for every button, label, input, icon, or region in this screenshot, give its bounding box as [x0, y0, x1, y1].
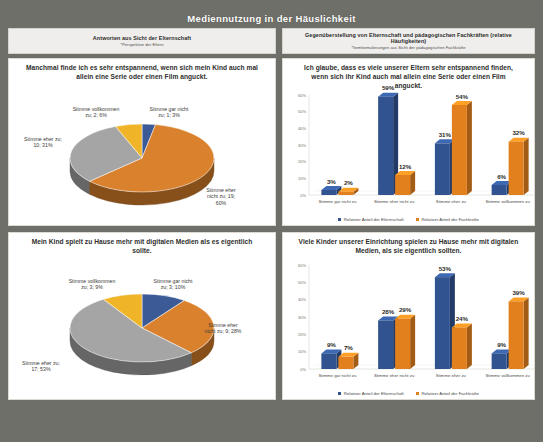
- page-title: Mediennutzung in der Häuslichkeit: [8, 8, 535, 28]
- bar: [509, 297, 529, 369]
- pie-data-label: Stimme eher nicht zu; 9; 28%: [195, 322, 251, 335]
- y-axis-tick: 40%: [298, 297, 306, 302]
- bar-legend: Relativer Anteil der ElternschaftRelativ…: [283, 217, 534, 222]
- bar-value-label: 28%: [382, 308, 395, 315]
- slide-canvas: Mediennutzung in der Häuslichkeit Antwor…: [0, 0, 543, 442]
- legend-label: Relativer Anteil der Fachkräfte: [421, 391, 479, 396]
- y-axis-tick: 20%: [298, 159, 306, 164]
- x-axis-category-label: Stimme vollkommen zu: [485, 199, 530, 204]
- bar: [338, 353, 358, 369]
- bar: [395, 171, 415, 195]
- bar-legend: Relativer Anteil der ElternschaftRelativ…: [283, 391, 534, 396]
- x-axis-category-label: Stimme gar nicht zu: [318, 199, 357, 204]
- y-axis-tick: 10%: [298, 176, 306, 181]
- bar-value-label: 6%: [497, 173, 506, 180]
- bar: [452, 323, 472, 369]
- legend-item: Relativer Anteil der Elternschaft: [338, 391, 404, 396]
- pie-data-label: Stimme eher nicht zu; 19; 60%: [195, 187, 247, 207]
- legend-item: Relativer Anteil der Fachkräfte: [416, 391, 479, 396]
- legend-item: Relativer Anteil der Elternschaft: [338, 217, 404, 222]
- pie-data-label: Stimme vollkommen zu; 3; 9%: [61, 278, 123, 291]
- legend-swatch-icon: [338, 392, 341, 395]
- pie-data-label: Stimme eher zu; 10; 31%: [15, 136, 71, 149]
- column-header-left-title: Antworten aus Sicht der Elternschaft: [93, 35, 191, 41]
- column-header-right-title: Gegenüberstellung von Elternschaft und p…: [287, 32, 530, 44]
- legend-item: Relativer Anteil der Fachkräfte: [416, 217, 479, 222]
- x-axis-category-label: Stimme vollkommen zu: [485, 373, 530, 378]
- legend-swatch-icon: [416, 218, 419, 221]
- y-axis-tick: 30%: [298, 143, 306, 148]
- legend-label: Relativer Anteil der Elternschaft: [344, 217, 404, 222]
- y-axis-tick: 50%: [298, 109, 306, 114]
- y-axis-tick: 30%: [298, 315, 306, 320]
- bar-value-label: 54%: [456, 93, 469, 100]
- panel-pie-bottom: Mein Kind spielt zu Hause mehr mit digit…: [8, 232, 276, 400]
- column-headers: Antworten aus Sicht der Elternschaft *Pe…: [8, 28, 535, 54]
- bar-value-label: 31%: [439, 131, 452, 138]
- bar-value-label: 59%: [382, 84, 395, 91]
- bar-svg: 0%10%20%30%40%50%60%3%2%Stimme gar nicht…: [283, 59, 535, 225]
- pie-data-label: Stimme gar nicht zu; 1; 3%: [141, 106, 197, 119]
- panel-bar-bottom: Viele Kinder unserer Einrichtung spielen…: [282, 232, 535, 400]
- legend-label: Relativer Anteil der Fachkräfte: [421, 217, 479, 222]
- pie-data-label: Stimme eher zu; 17; 53%: [13, 360, 69, 373]
- y-axis-tick: 20%: [298, 332, 306, 337]
- panel-pie-top: Manchmal finde ich es sehr entspannend, …: [8, 58, 276, 226]
- legend-swatch-icon: [416, 392, 419, 395]
- bar-value-label: 9%: [327, 341, 336, 348]
- bar-value-label: 12%: [399, 163, 412, 170]
- y-axis-tick: 50%: [298, 280, 306, 285]
- bar-value-label: 24%: [456, 315, 469, 322]
- y-axis-tick: 0%: [300, 193, 306, 198]
- legend-swatch-icon: [338, 218, 341, 221]
- chart-title-pie-bottom: Mein Kind spielt zu Hause mehr mit digit…: [9, 233, 275, 256]
- bar-value-label: 29%: [399, 306, 412, 313]
- pie-chart-top: Stimme gar nicht zu; 1; 3%Stimme eher ni…: [9, 82, 275, 226]
- bar-chart-top: 0%10%20%30%40%50%60%3%2%Stimme gar nicht…: [283, 59, 534, 225]
- bar-svg: 0%10%20%30%40%50%60%9%7%Stimme gar nicht…: [283, 233, 535, 399]
- pie-chart-bottom: Stimme gar nicht zu; 3; 10%Stimme eher n…: [9, 256, 275, 400]
- panel-bar-top: Ich glaube, dass es viele unserer Eltern…: [282, 58, 535, 226]
- bar: [452, 101, 472, 195]
- bar-chart-bottom: 0%10%20%30%40%50%60%9%7%Stimme gar nicht…: [283, 233, 534, 399]
- chart-grid: Manchmal finde ich es sehr entspannend, …: [8, 58, 535, 400]
- column-header-left: Antworten aus Sicht der Elternschaft *Pe…: [8, 28, 276, 54]
- chart-title-pie-top: Manchmal finde ich es sehr entspannend, …: [9, 59, 275, 82]
- x-axis-category-label: Stimme eher nicht zu: [374, 373, 415, 378]
- bar-value-label: 7%: [344, 344, 353, 351]
- pie-data-label: Stimme vollkommen zu; 2; 6%: [65, 106, 127, 119]
- pie-data-label: Stimme gar nicht zu; 3; 10%: [145, 278, 201, 291]
- bar-value-label: 39%: [512, 289, 525, 296]
- x-axis-category-label: Stimme eher zu: [436, 373, 467, 378]
- column-header-left-subtitle: *Perspektive der Eltern: [120, 42, 163, 47]
- y-axis-tick: 60%: [298, 93, 306, 98]
- y-axis-tick: 10%: [298, 349, 306, 354]
- bar-value-label: 3%: [327, 178, 336, 185]
- y-axis-tick: 40%: [298, 126, 306, 131]
- x-axis-category-label: Stimme eher zu: [436, 199, 467, 204]
- x-axis-category-label: Stimme eher nicht zu: [374, 199, 415, 204]
- y-axis-tick: 0%: [300, 367, 306, 372]
- bar: [509, 138, 529, 195]
- x-axis-category-label: Stimme gar nicht zu: [318, 373, 357, 378]
- bar-value-label: 2%: [344, 179, 353, 186]
- bar: [395, 315, 415, 369]
- legend-label: Relativer Anteil der Elternschaft: [344, 391, 404, 396]
- y-axis-tick: 60%: [298, 263, 306, 268]
- bar-value-label: 53%: [439, 265, 452, 272]
- bar-value-label: 32%: [512, 129, 525, 136]
- column-header-right: Gegenüberstellung von Elternschaft und p…: [282, 28, 535, 54]
- bar-value-label: 9%: [497, 341, 506, 348]
- column-header-right-subtitle: *Itemformulierungen aus Sicht der pädago…: [351, 45, 465, 50]
